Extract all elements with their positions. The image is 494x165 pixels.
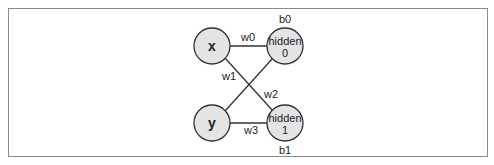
- node-hidden-0-label: hidden: [268, 35, 301, 47]
- node-y: y: [194, 105, 230, 141]
- weight-w3-label: w3: [243, 124, 258, 136]
- node-hidden-1-label: hidden: [268, 112, 301, 124]
- node-y-label: y: [208, 115, 216, 131]
- bias-b1-label: b1: [279, 144, 291, 156]
- bias-b0-label: b0: [279, 13, 291, 25]
- node-hidden-1: hidden 1: [267, 105, 303, 141]
- weight-w2-label: w2: [263, 88, 278, 100]
- node-x-label: x: [208, 38, 216, 54]
- node-hidden-0: hidden 0: [267, 28, 303, 64]
- node-hidden-1-index: 1: [282, 124, 288, 136]
- node-x: x: [194, 28, 230, 64]
- network-diagram: x y hidden 0 hidden 1 b0 b1 w0 w1 w2 w3: [0, 0, 494, 165]
- weight-w1-label: w1: [221, 70, 236, 82]
- node-hidden-0-index: 0: [282, 47, 288, 59]
- weight-w0-label: w0: [240, 31, 255, 43]
